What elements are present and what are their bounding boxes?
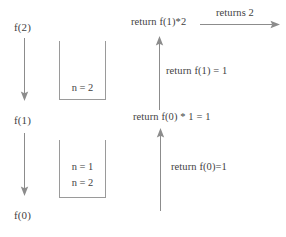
return-label-top: return f(1)*2 <box>131 16 186 28</box>
stack-frame-lower-entry-1: n = 2 <box>60 177 105 189</box>
stack-frame-upper: n = 2 <box>59 41 106 100</box>
stack-frame-lower: n = 1 n = 2 <box>59 140 106 198</box>
return-annotation-upper: return f(1) = 1 <box>166 65 227 77</box>
return-arrow-final-shaft <box>200 24 272 25</box>
call-arrow-f1-to-f0-shaft <box>24 133 25 189</box>
return-annotation-lower: return f(0)=1 <box>171 161 227 173</box>
stack-frame-lower-entry-0: n = 1 <box>60 161 105 173</box>
stack-frame-upper-entry-0: n = 2 <box>60 82 105 94</box>
call-arrow-f1-to-f0-head <box>19 186 30 196</box>
call-arrow-f2-to-f1-shaft <box>24 38 25 94</box>
return-label-middle: return f(0) * 1 = 1 <box>133 111 211 123</box>
return-arrow-upper-shaft <box>159 43 160 110</box>
call-arrow-f2-to-f1-head <box>19 91 30 101</box>
return-arrow-lower-shaft <box>160 135 161 211</box>
call-node-f1: f(1) <box>14 114 31 126</box>
return-arrow-final-head <box>270 19 280 30</box>
returns-final-label: returns 2 <box>216 7 254 19</box>
call-node-f0: f(0) <box>14 209 31 221</box>
diagram-canvas: f(2) f(1) f(0) n = 2 n = 1 n = 2 return … <box>0 0 286 237</box>
call-node-f2: f(2) <box>14 21 31 33</box>
